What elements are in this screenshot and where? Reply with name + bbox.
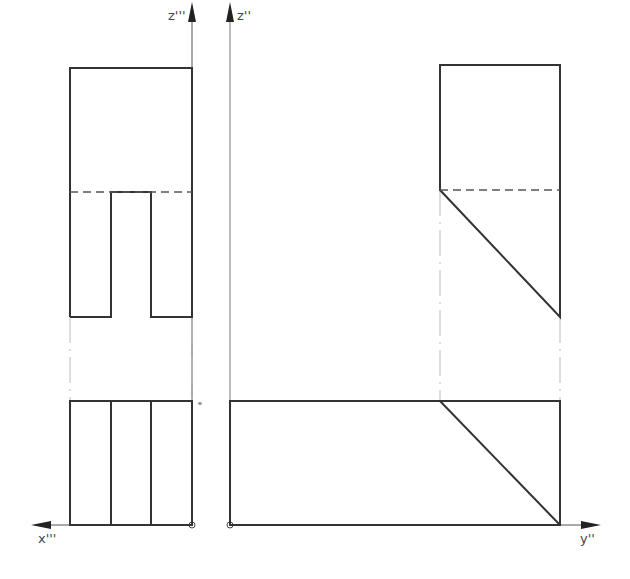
y-double-label: y'' [580,531,595,546]
axes [31,2,601,529]
y-double-arrow-icon [581,521,601,529]
z-double-label: z'' [237,8,251,23]
small-mark: ᵉ [198,400,202,411]
z-triple-arrow-icon [188,2,196,22]
z-triple-label: z''' [168,8,186,23]
side-view-upper-left [70,68,192,317]
plan-view-lower-right [230,401,560,525]
front-view-upper-right [440,65,560,317]
x-triple-arrow-icon [31,521,51,529]
top-view-lower-left [70,401,192,525]
z-double-arrow-icon [226,2,234,22]
projection-lines [70,190,560,401]
drawing-canvas [0,0,630,579]
x-triple-label: x''' [38,531,56,546]
